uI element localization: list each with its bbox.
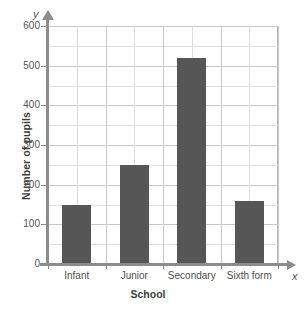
y-tick-mark — [41, 66, 47, 67]
y-tick-mark — [41, 264, 47, 265]
y-tick-label: 400 — [0, 99, 40, 110]
x-axis-title: School — [48, 288, 248, 300]
gridline-major-vertical — [163, 26, 164, 264]
x-tick-label-sixth-form: Sixth form — [204, 270, 294, 281]
y-tick-mark — [41, 185, 47, 186]
gridline-major-vertical — [278, 26, 279, 264]
y-tick-label: 0 — [0, 258, 40, 269]
y-tick-label: 600 — [0, 20, 40, 31]
x-tick-mark — [278, 263, 279, 269]
gridline-major-vertical — [106, 26, 107, 264]
bar-infant — [62, 205, 91, 265]
y-tick-label: 500 — [0, 60, 40, 71]
x-tick-mark — [221, 263, 222, 269]
y-tick-label: 200 — [0, 179, 40, 190]
y-tick-label: 100 — [0, 218, 40, 229]
bar-sixth-form — [235, 201, 264, 264]
bar-chart-figure: Number of pupils School y x 010020030040… — [0, 0, 308, 310]
x-axis-arrow-icon — [287, 260, 296, 270]
x-tick-mark — [106, 263, 107, 269]
y-tick-label: 300 — [0, 139, 40, 150]
y-axis-arrow-icon — [42, 10, 54, 20]
y-tick-mark — [41, 224, 47, 225]
bar-secondary — [177, 58, 206, 264]
gridline-major-vertical — [221, 26, 222, 264]
y-axis-line — [46, 18, 49, 266]
plot-area — [48, 26, 278, 264]
y-tick-mark — [41, 105, 47, 106]
x-tick-mark — [48, 263, 49, 269]
bar-junior — [120, 165, 149, 264]
y-tick-mark — [41, 145, 47, 146]
y-axis-letter: y — [33, 8, 39, 20]
x-axis-line — [40, 263, 288, 266]
x-tick-mark — [163, 263, 164, 269]
y-tick-mark — [41, 26, 47, 27]
